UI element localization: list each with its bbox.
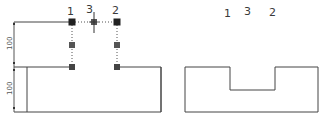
left-view: 100 100 1 3 2 [6, 3, 161, 112]
grip-point-1[interactable] [69, 19, 76, 26]
point-label-3: 3 [86, 3, 93, 16]
point-label-1: 1 [67, 5, 74, 18]
grip-point-2[interactable] [114, 19, 121, 26]
right-view: 1 3 2 [161, 5, 318, 112]
point-label-2: 2 [112, 4, 119, 17]
grip-bottom-left[interactable] [69, 64, 75, 70]
point-label-1: 1 [224, 7, 231, 20]
grip-bottom-right[interactable] [114, 64, 120, 70]
dimension-label-upper: 100 [6, 37, 14, 50]
cad-canvas: 100 100 1 3 2 1 3 2 [0, 0, 325, 127]
point-label-2: 2 [269, 6, 276, 19]
notched-profile-shape[interactable] [185, 67, 318, 112]
point-label-3: 3 [244, 5, 251, 18]
grip-mid-right[interactable] [114, 42, 120, 48]
dimension-label-lower: 100 [6, 82, 14, 95]
grip-mid-left[interactable] [69, 42, 75, 48]
